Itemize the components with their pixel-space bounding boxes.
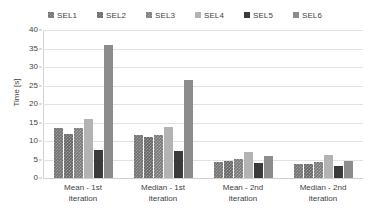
y-tick-label: 40 (29, 26, 38, 34)
y-tick-label: 30 (29, 63, 38, 71)
bar-groups (43, 30, 363, 178)
bar-sel1[interactable] (54, 128, 63, 178)
y-tick-label: 15 (29, 119, 38, 127)
legend-swatch-icon (195, 12, 201, 18)
legend-swatch-icon (293, 12, 299, 18)
bar-group (283, 30, 363, 178)
x-axis-labels: Mean - 1stiterationMedian - 1stiteration… (43, 182, 363, 204)
legend-label: SEL6 (302, 11, 322, 20)
bar-sel2[interactable] (144, 137, 153, 178)
bar-sel5[interactable] (94, 150, 103, 178)
x-axis-label-line: iteration (123, 193, 203, 204)
legend-item-sel4[interactable]: SEL4 (195, 11, 224, 20)
y-tick-label: 20 (29, 100, 38, 108)
legend-swatch-icon (97, 12, 103, 18)
y-tick-mark (39, 159, 42, 160)
bar-sel6[interactable] (344, 161, 353, 178)
bar-group (43, 30, 123, 178)
legend-swatch-icon (48, 12, 54, 18)
bar-chart: SEL1SEL2SEL3SEL4SEL5SEL6 Time [s] 403530… (0, 0, 370, 217)
x-axis-label-line: Mean - 1st (43, 182, 123, 193)
bar-sel6[interactable] (264, 156, 273, 178)
y-tick-label: 35 (29, 45, 38, 53)
bar-sel3[interactable] (154, 135, 163, 178)
plot-area: 4035302520151050 (43, 30, 363, 178)
y-axis-title: Time [s] (12, 63, 21, 123)
y-tick-mark (39, 122, 42, 123)
bar-sel3[interactable] (74, 128, 83, 178)
bar-sel4[interactable] (244, 152, 253, 178)
legend-item-sel1[interactable]: SEL1 (48, 11, 77, 20)
legend-label: SEL4 (204, 11, 224, 20)
x-axis-label: Median - 2nditeration (283, 182, 363, 204)
bar-sel4[interactable] (324, 155, 333, 178)
y-tick-label: 10 (29, 137, 38, 145)
legend-label: SEL1 (57, 11, 77, 20)
legend-label: SEL3 (155, 11, 175, 20)
legend-swatch-icon (244, 12, 250, 18)
y-tick-label: 25 (29, 82, 38, 90)
y-tick-mark (39, 85, 42, 86)
bar-group (123, 30, 203, 178)
bar-sel2[interactable] (224, 161, 233, 178)
bar-sel3[interactable] (234, 159, 243, 178)
chart-legend: SEL1SEL2SEL3SEL4SEL5SEL6 (0, 6, 370, 24)
x-axis-label-line: iteration (43, 193, 123, 204)
y-tick-mark (39, 178, 42, 179)
y-tick-mark (39, 67, 42, 68)
bar-sel6[interactable] (104, 45, 113, 178)
legend-item-sel3[interactable]: SEL3 (146, 11, 175, 20)
y-tick-label: 0 (34, 174, 38, 182)
bar-sel2[interactable] (304, 164, 313, 178)
legend-label: SEL2 (106, 11, 126, 20)
legend-item-sel5[interactable]: SEL5 (244, 11, 273, 20)
bar-sel1[interactable] (134, 135, 143, 178)
legend-item-sel2[interactable]: SEL2 (97, 11, 126, 20)
y-tick-mark (39, 48, 42, 49)
bar-group (203, 30, 283, 178)
x-axis-label: Median - 1stiteration (123, 182, 203, 204)
x-axis-label-line: Median - 1st (123, 182, 203, 193)
x-axis-label-line: iteration (203, 193, 283, 204)
x-axis-label: Mean - 2nditeration (203, 182, 283, 204)
bar-sel6[interactable] (184, 80, 193, 178)
legend-swatch-icon (146, 12, 152, 18)
bar-sel3[interactable] (314, 162, 323, 178)
x-axis-label: Mean - 1stiteration (43, 182, 123, 204)
bar-sel1[interactable] (294, 164, 303, 178)
y-tick-mark (39, 30, 42, 31)
legend-label: SEL5 (253, 11, 273, 20)
x-axis-label-line: Mean - 2nd (203, 182, 283, 193)
bar-sel5[interactable] (254, 163, 263, 178)
legend-item-sel6[interactable]: SEL6 (293, 11, 322, 20)
y-tick-mark (39, 141, 42, 142)
bar-sel4[interactable] (164, 127, 173, 178)
y-tick-mark (39, 104, 42, 105)
y-tick-label: 5 (34, 156, 38, 164)
bar-sel2[interactable] (64, 134, 73, 178)
bar-sel5[interactable] (334, 166, 343, 178)
gridline (43, 178, 363, 179)
x-axis-label-line: iteration (283, 193, 363, 204)
bar-sel4[interactable] (84, 119, 93, 178)
bar-sel1[interactable] (214, 162, 223, 178)
x-axis-label-line: Median - 2nd (283, 182, 363, 193)
bar-sel5[interactable] (174, 151, 183, 178)
